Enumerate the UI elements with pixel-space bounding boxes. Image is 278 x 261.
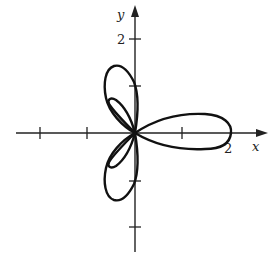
y-axis-arrow-icon [131, 5, 139, 17]
lower-left-inner-loop [108, 133, 135, 167]
polar-graph: y 2 2 x [0, 0, 278, 261]
x-axis-label: x [252, 139, 260, 154]
y-axis-label: y [116, 7, 125, 22]
x-axis-arrow-icon [256, 129, 268, 137]
right-petal [135, 114, 231, 149]
y-tick-label-2: 2 [117, 32, 125, 47]
upper-left-inner-loop [108, 99, 135, 133]
